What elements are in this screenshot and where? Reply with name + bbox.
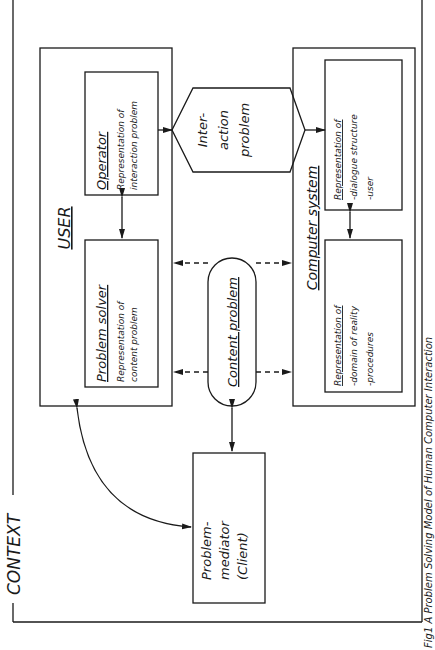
operator-title: Operator [94,130,109,190]
dialogue-item1: -dialogue structure [349,114,359,200]
problem-solver-line2: content problem [129,307,139,382]
user-title: USER [55,206,74,249]
operator-line1: Representation of [116,108,126,190]
problem-solver-line1: Representation of [116,300,126,382]
dialogue-item2: -user [365,176,375,200]
content-problem-title: Content problem [225,277,240,387]
domain-item1: -domain of reality [349,305,359,386]
computer-system-title: Computer system [304,166,320,291]
context-label: CONTEXT [4,512,24,595]
interaction-problem-line1: Inter- [195,112,210,147]
domain-item2: -procedures [365,332,375,386]
dialogue-title: Representation of [333,118,343,200]
problem-mediator-line1: Problem- [199,521,214,580]
problem-mediator-line2: mediator [217,519,232,580]
problem-solver-title: Problem solver [94,283,109,382]
figure-caption: Fig1 A Problem Solving Model of Human Co… [423,337,434,648]
interaction-problem-line3: problem [237,103,252,158]
domain-title: Representation of [333,304,343,386]
hci-problem-solving-diagram: CONTEXT USER Operator Representation of … [0,0,435,650]
arrow-user-mediator-curve [77,408,191,527]
operator-line2: interaction problem [129,101,139,190]
problem-mediator-line3: (Client) [235,532,250,580]
interaction-problem-line2: action [216,110,231,150]
